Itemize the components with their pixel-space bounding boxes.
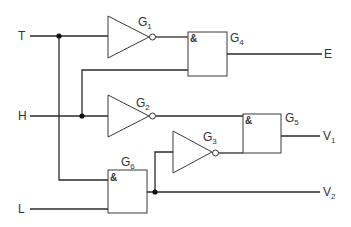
input-label-l: L [18, 202, 25, 216]
output-label-v2: V2 [323, 185, 336, 201]
gate-g6: & G6 [108, 155, 147, 213]
input-label-h: H [18, 109, 27, 123]
gate-g5: & G5 [243, 111, 299, 153]
gate-g1: G1 [108, 15, 156, 58]
svg-text:&: & [110, 172, 117, 183]
junction-dot [152, 189, 157, 194]
gate-g3: G3 [173, 130, 219, 173]
junction-dot [56, 33, 61, 38]
svg-text:G1: G1 [138, 15, 152, 31]
svg-text:&: & [245, 115, 252, 126]
svg-text:G4: G4 [230, 31, 244, 47]
input-label-t: T [18, 29, 26, 43]
svg-text:G3: G3 [203, 130, 217, 146]
wire-t-to-g6 [59, 36, 108, 180]
gate-g2: G2 [108, 95, 156, 137]
svg-text:&: & [190, 33, 197, 44]
output-label-v1: V1 [323, 129, 336, 145]
logic-circuit-diagram: G1 G2 G3 & G4 & G5 & G6 T H L E V1 V2 [0, 0, 351, 227]
wire-g6-to-g3 [155, 152, 173, 192]
output-label-e: E [324, 47, 332, 61]
svg-text:G6: G6 [121, 155, 135, 171]
svg-text:G5: G5 [285, 111, 299, 127]
svg-text:G2: G2 [136, 96, 150, 112]
junction-dot [79, 113, 84, 118]
